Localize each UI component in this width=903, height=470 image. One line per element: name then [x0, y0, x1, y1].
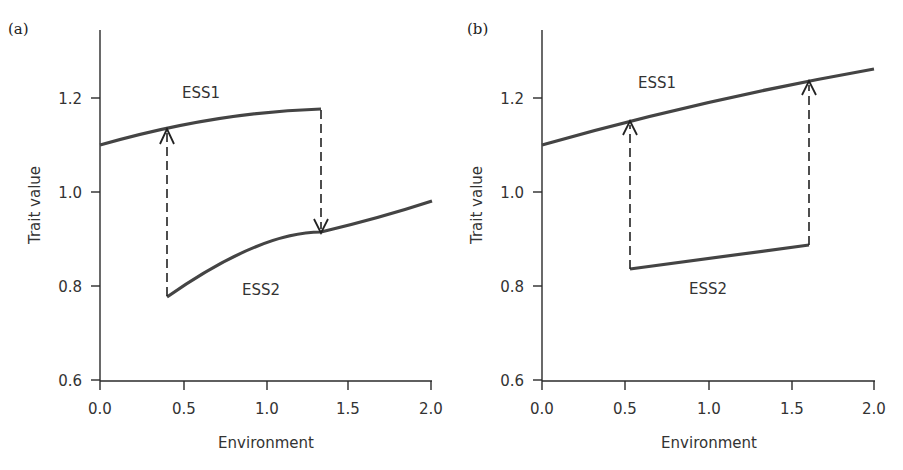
svg-text:1.0: 1.0	[58, 184, 82, 202]
ess1-curve	[100, 109, 321, 145]
figure: (a) 1.2 1.0 0.8 0.6 0.0 0.5 1.0 1.5 2.0	[0, 0, 903, 470]
ess2-label: ESS2	[242, 281, 280, 299]
svg-text:1.5: 1.5	[780, 400, 804, 418]
svg-text:1.2: 1.2	[58, 90, 82, 108]
svg-text:0.6: 0.6	[500, 372, 524, 390]
svg-text:1.0: 1.0	[697, 400, 721, 418]
panel-a: (a) 1.2 1.0 0.8 0.6 0.0 0.5 1.0 1.5 2.0	[8, 20, 443, 452]
svg-text:0.6: 0.6	[58, 372, 82, 390]
y-ticks: 1.2 1.0 0.8 0.6	[58, 90, 100, 390]
svg-text:1.5: 1.5	[336, 400, 360, 418]
x-ticks: 0.0 0.5 1.0 1.5 2.0	[530, 381, 886, 418]
y-ticks: 1.2 1.0 0.8 0.6	[500, 90, 542, 390]
svg-text:1.0: 1.0	[500, 184, 524, 202]
panel-a-label: (a)	[8, 20, 29, 38]
svg-text:0.0: 0.0	[530, 400, 554, 418]
svg-text:1.0: 1.0	[255, 400, 279, 418]
x-ticks: 0.0 0.5 1.0 1.5 2.0	[88, 381, 443, 418]
x-axis-label: Environment	[661, 434, 757, 452]
svg-text:0.5: 0.5	[172, 400, 196, 418]
svg-text:2.0: 2.0	[862, 400, 886, 418]
svg-text:0.0: 0.0	[88, 400, 112, 418]
y-axis-label: Trait value	[26, 166, 44, 245]
svg-text:1.2: 1.2	[500, 90, 524, 108]
ess2-label: ESS2	[689, 280, 727, 298]
svg-text:2.0: 2.0	[419, 400, 443, 418]
ess1-label: ESS1	[182, 84, 220, 102]
ess2-curve	[167, 201, 432, 297]
panel-b: (b) 1.2 1.0 0.8 0.6 0.0 0.5 1.0 1.5 2.0 …	[467, 20, 886, 452]
ess1-curve	[542, 69, 874, 145]
ess2-curve	[630, 245, 809, 269]
y-axis-label: Trait value	[468, 166, 486, 245]
svg-text:0.5: 0.5	[613, 400, 637, 418]
svg-text:0.8: 0.8	[500, 278, 524, 296]
svg-text:0.8: 0.8	[58, 278, 82, 296]
x-axis-label: Environment	[218, 434, 314, 452]
ess1-label: ESS1	[638, 74, 676, 92]
panel-b-label: (b)	[467, 20, 488, 38]
